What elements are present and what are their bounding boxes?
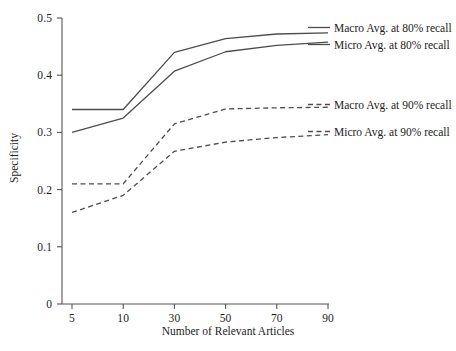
legend-entry-label: Macro Avg. at 90% recall bbox=[334, 99, 452, 111]
x-axis-tick-label: 10 bbox=[117, 312, 129, 324]
x-axis-title: Number of Relevant Articles bbox=[0, 325, 456, 337]
legend-entry-label: Macro Avg. at 80% recall bbox=[334, 22, 452, 34]
y-axis-tick-label: 0 bbox=[8, 298, 52, 310]
data-series-group bbox=[72, 33, 328, 213]
y-axis-title: Specificity bbox=[8, 118, 20, 198]
x-axis-tick-label: 90 bbox=[322, 312, 334, 324]
x-axis-tick-label: 70 bbox=[271, 312, 283, 324]
data-series-line bbox=[72, 135, 328, 213]
data-series-line bbox=[72, 42, 328, 132]
legend-entry-label: Micro Avg. at 80% recall bbox=[334, 39, 450, 51]
legend-entry-label: Micro Avg. at 90% recall bbox=[334, 126, 450, 138]
y-axis-tick-label: 0.1 bbox=[8, 241, 52, 253]
x-axis-ticks bbox=[72, 304, 328, 309]
x-axis-tick-label: 5 bbox=[69, 312, 75, 324]
x-axis-tick-label: 30 bbox=[169, 312, 181, 324]
y-axis-tick-label: 0.5 bbox=[8, 12, 52, 24]
chart-figure: 00.10.20.30.40.5 51030507090 Macro Avg. … bbox=[0, 0, 456, 351]
chart-plot-area bbox=[0, 0, 456, 351]
y-axis-tick-label: 0.4 bbox=[8, 69, 52, 81]
y-axis-ticks bbox=[57, 18, 62, 304]
x-axis-tick-label: 50 bbox=[220, 312, 232, 324]
data-series-line bbox=[72, 107, 328, 184]
axis-lines bbox=[62, 18, 329, 304]
